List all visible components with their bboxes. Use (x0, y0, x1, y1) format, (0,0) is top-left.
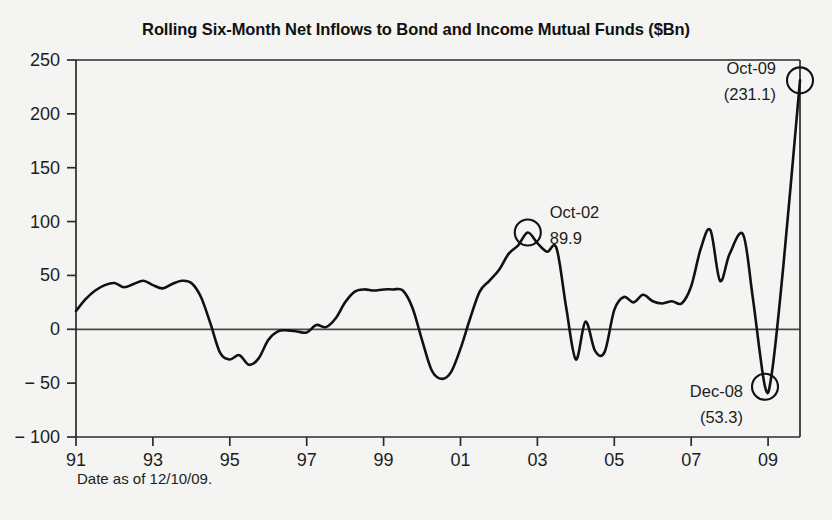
x-axis-ticks: 91939597990103050709 (66, 437, 778, 470)
x-axis-tick-label: 97 (297, 450, 317, 470)
annotation-label-oct-09-line2: (231.1) (724, 85, 776, 103)
y-axis-tick-label: 100 (30, 212, 60, 232)
x-axis-tick-label: 93 (143, 450, 163, 470)
chart-footnote: Date as of 12/10/09. (77, 470, 212, 487)
y-axis-tick-label: 150 (30, 158, 60, 178)
x-axis-tick-label: 03 (527, 450, 547, 470)
x-axis-tick-label: 91 (66, 450, 86, 470)
y-axis-tick-label: 200 (30, 104, 60, 124)
data-series-group (76, 80, 800, 393)
y-axis-tick-label: − 100 (14, 427, 60, 447)
y-axis-tick-label: 50 (40, 265, 60, 285)
x-axis-tick-label: 01 (450, 450, 470, 470)
x-axis-tick-label: 05 (604, 450, 624, 470)
annotation-label-oct-02-line1: Oct-02 (550, 203, 600, 221)
annotation-label-dec-08-line2: (53.3) (700, 408, 743, 426)
y-axis-tick-label: 0 (50, 319, 60, 339)
annotation-label-oct-09-line1: Oct-09 (726, 59, 776, 77)
axis-frame (76, 60, 800, 437)
y-axis-tick-label: − 50 (24, 373, 60, 393)
x-axis-tick-label: 99 (374, 450, 394, 470)
x-axis-tick-label: 09 (758, 450, 778, 470)
annotation-label-oct-02-line2: 89.9 (550, 229, 582, 247)
line-chart-plot: 250200150100500− 50− 100 919395979901030… (0, 0, 832, 520)
y-axis-ticks: 250200150100500− 50− 100 (14, 50, 800, 447)
x-axis-tick-label: 07 (681, 450, 701, 470)
series-line (76, 80, 800, 393)
x-axis-tick-label: 95 (220, 450, 240, 470)
chart-container: Rolling Six-Month Net Inflows to Bond an… (0, 0, 832, 520)
annotation-group: Oct-0289.9Oct-09(231.1)Dec-08(53.3) (515, 59, 813, 425)
y-axis-tick-label: 250 (30, 50, 60, 70)
annotation-label-dec-08-line1: Dec-08 (690, 382, 743, 400)
